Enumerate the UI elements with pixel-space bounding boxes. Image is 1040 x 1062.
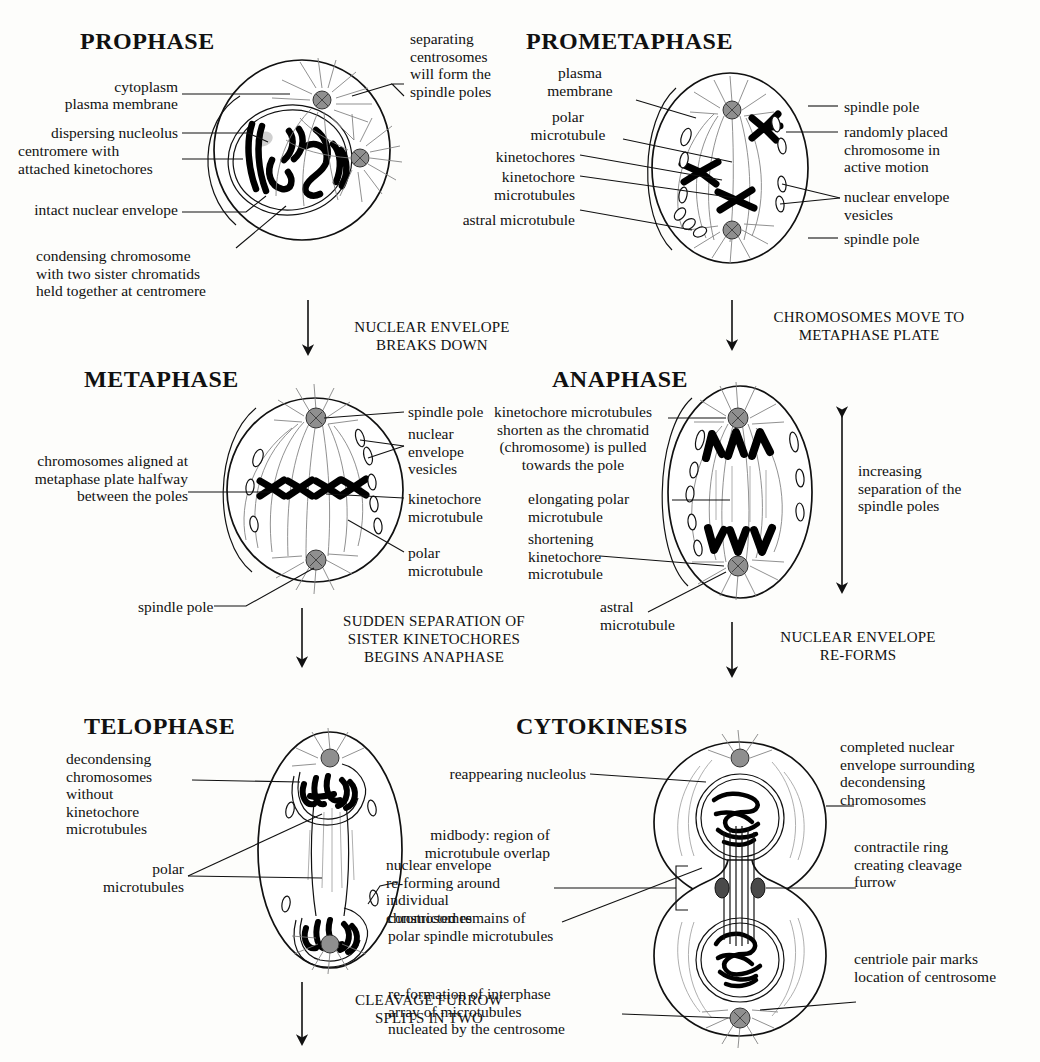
anaphase-label-increasing-separation: increasing separation of the spindle pol…: [858, 462, 1038, 515]
prometaphase-label-nuclear-envelope-vesicles: nuclear envelope vesicles: [844, 188, 1040, 223]
metaphase-label-chromosomes-aligned: chromosomes aligned at metaphase plate h…: [0, 452, 188, 505]
cytokinesis-label-midbody: midbody: region of microtubule overlap: [360, 826, 550, 861]
transition-nuclear-envelope-reforms: NUCLEAR ENVELOPE RE-FORMS: [748, 628, 968, 664]
metaphase-label-polar-microtubule: polar microtubule: [408, 544, 524, 579]
stage-title-anaphase: ANAPHASE: [552, 366, 688, 393]
anaphase-label-kinetochore-microtubules-shorten: kinetochore microtubules shorten as the …: [474, 403, 672, 473]
transition-chromosomes-move-to-metaphase-plate: CHROMOSOMES MOVE TO METAPHASE PLATE: [744, 308, 994, 344]
stage-title-prophase: PROPHASE: [80, 28, 215, 55]
prometaphase-cell-drawing: [580, 73, 840, 264]
prometaphase-label-astral-microtubule: astral microtubule: [400, 211, 575, 229]
cytokinesis-label-completed-nuclear-envelope: completed nuclear envelope surrounding d…: [840, 738, 1040, 808]
prophase-cell-drawing: [182, 58, 404, 248]
stage-title-prometaphase: PROMETAPHASE: [526, 28, 733, 55]
transition-sudden-separation: SUDDEN SEPARATION OF SISTER KINETOCHORES…: [316, 612, 552, 666]
metaphase-cell-drawing: [188, 384, 404, 606]
prophase-label-plasma-membrane: plasma membrane: [0, 95, 178, 113]
cytokinesis-label-contractile-ring: contractile ring creating cleavage furro…: [854, 838, 1040, 891]
metaphase-label-kinetochore-microtubule: kinetochore microtubule: [408, 490, 524, 525]
prophase-label-condensing-chromosome: condensing chromosome with two sister ch…: [36, 247, 336, 300]
transition-cleavage-furrow-splits: CLEAVAGE FURROW SPLITS IN TWO: [318, 991, 540, 1027]
prometaphase-label-spindle-pole-top: spindle pole: [844, 98, 1034, 116]
transition-nuclear-envelope-breaks-down: NUCLEAR ENVELOPE BREAKS DOWN: [322, 318, 542, 354]
prophase-label-intact-nuclear-envelope: intact nuclear envelope: [0, 201, 178, 219]
prometaphase-label-spindle-pole-bottom: spindle pole: [844, 230, 1034, 248]
prophase-label-centromere-kinetochores: centromere with attached kinetochores: [18, 142, 188, 177]
prometaphase-label-plasma-membrane: plasma membrane: [520, 64, 640, 99]
cytokinesis-label-reappearing-nucleolus: reappearing nucleolus: [400, 765, 586, 783]
telophase-label-polar-microtubules: polar microtubules: [40, 860, 184, 895]
metaphase-label-spindle-pole-bottom: spindle pole: [138, 598, 248, 616]
stage-title-telophase: TELOPHASE: [84, 713, 235, 740]
cytokinesis-label-centriole-pair: centriole pair marks location of centros…: [854, 950, 1040, 985]
cytokinesis-label-constricted-remains: constricted remains of polar spindle mic…: [388, 909, 648, 944]
prometaphase-label-randomly-placed-chromosome: randomly placed chromosome in active mot…: [844, 123, 1040, 176]
stage-title-cytokinesis: CYTOKINESIS: [516, 713, 688, 740]
anaphase-label-shortening-kinetochore-microtubule: shortening kinetochore microtubule: [528, 530, 670, 583]
anaphase-label-astral-microtubule: astral microtubule: [600, 598, 720, 633]
prometaphase-label-polar-microtubule: polar microtubule: [508, 108, 628, 143]
prophase-label-dispersing-nucleolus: dispersing nucleolus: [0, 124, 178, 142]
prometaphase-label-kinetochore-microtubules: kinetochore microtubules: [400, 168, 575, 203]
anaphase-label-elongating-polar-microtubule: elongating polar microtubule: [528, 490, 670, 525]
prometaphase-label-kinetochores: kinetochores: [400, 148, 575, 166]
telophase-label-decondensing-chromosomes: decondensing chromosomes without kinetoc…: [66, 750, 236, 838]
stage-title-metaphase: METAPHASE: [84, 366, 239, 393]
prophase-label-cytoplasm: cytoplasm: [0, 78, 178, 96]
